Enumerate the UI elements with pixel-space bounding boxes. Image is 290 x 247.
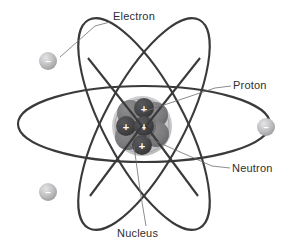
leader-line-electron — [60, 22, 110, 57]
proton-left-sign: + — [123, 121, 129, 133]
label-nucleus: Nucleus — [117, 227, 158, 239]
electron-bottom-left-sign: – — [45, 187, 51, 198]
proton-top: + — [134, 98, 154, 118]
electron-right-sign: – — [263, 122, 269, 133]
atom-diagram-canvas: + + + + — [0, 0, 290, 247]
proton-bottom-sign: + — [139, 140, 145, 152]
proton-left: + — [116, 116, 136, 136]
label-electron: Electron — [113, 10, 155, 22]
electron-right: – — [257, 118, 275, 136]
proton-top-sign: + — [141, 103, 147, 115]
label-proton: Proton — [233, 79, 267, 91]
electron-bottom-left: – — [39, 183, 57, 201]
atom-diagram: + + + + — [0, 0, 290, 247]
electron-top-left-sign: – — [45, 56, 51, 67]
label-neutron: Neutron — [232, 162, 273, 174]
electron-top-left: – — [39, 52, 57, 70]
